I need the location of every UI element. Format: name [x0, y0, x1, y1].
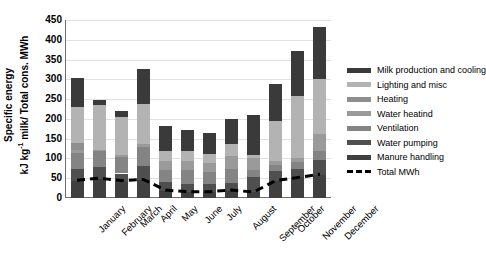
legend-swatch — [347, 140, 371, 145]
y-axis-tick-label: 350 — [34, 55, 62, 65]
y-axis-tick-label: 250 — [34, 94, 62, 104]
legend-item: Water heatind — [347, 107, 483, 122]
total-mwh-line — [66, 20, 331, 198]
chart-legend: Milk production and coolingLighting and … — [347, 63, 483, 179]
y-axis-tick-label: 450 — [34, 15, 62, 25]
x-axis-tick-label: April — [158, 203, 179, 224]
y-axis-tick-labels: 450400350300250200150100500 — [30, 20, 62, 198]
y-axis-tick-label: 200 — [34, 114, 62, 124]
total-mwh-polyline — [77, 174, 320, 192]
legend-label: Total MWh — [377, 167, 420, 177]
legend-label: Lighting and misc — [377, 80, 447, 90]
legend-label: Heating — [377, 94, 408, 104]
x-axis-tick-label: August — [249, 203, 278, 232]
legend-swatch — [347, 126, 371, 131]
legend-item: Manure handling — [347, 150, 483, 165]
y-axis-tick-label: 0 — [34, 193, 62, 203]
y-axis-title-unit-pre: kJ kg — [19, 149, 30, 175]
y-axis-title-exponent: -1 — [17, 143, 24, 149]
legend-swatch — [347, 111, 371, 116]
x-axis-tick-label: July — [223, 203, 243, 223]
legend-label: Water pumping — [377, 138, 438, 148]
legend-swatch — [347, 68, 371, 73]
x-axis-tick-label: June — [202, 203, 224, 225]
y-axis-tick-label: 50 — [34, 173, 62, 183]
legend-swatch — [347, 155, 371, 160]
legend-swatch — [347, 170, 371, 173]
x-axis-tick-label: May — [180, 203, 200, 223]
legend-item: Lighting and misc — [347, 78, 483, 93]
y-axis-title-unit-post: milk/ Total cons. MWh — [19, 36, 30, 143]
y-axis-tick-label: 400 — [34, 35, 62, 45]
y-axis-tick-label: 300 — [34, 74, 62, 84]
legend-item: Total MWh — [347, 165, 483, 180]
y-axis-title: Specific energy kJ kg-1 milk/ Total cons… — [0, 0, 34, 210]
legend-label: Ventilation — [377, 123, 419, 133]
x-axis-tick-labels: JanuaryFebruaryMarchAprilMayJuneJulyAugu… — [66, 201, 331, 263]
y-axis-tick-label: 100 — [34, 153, 62, 163]
y-axis-title-line2: kJ kg-1 milk/ Total cons. MWh — [15, 36, 30, 175]
legend-label: Milk production and cooling — [377, 65, 486, 75]
legend-item: Ventilation — [347, 121, 483, 136]
legend-item: Water pumping — [347, 136, 483, 151]
legend-label: Manure handling — [377, 152, 444, 162]
y-axis-tick-label: 150 — [34, 134, 62, 144]
legend-label: Water heatind — [377, 109, 433, 119]
y-axis-title-line1: Specific energy — [3, 36, 15, 175]
legend-item: Heating — [347, 92, 483, 107]
legend-item: Milk production and cooling — [347, 63, 483, 78]
plot-area — [66, 20, 331, 198]
legend-swatch — [347, 82, 371, 87]
legend-swatch — [347, 97, 371, 102]
